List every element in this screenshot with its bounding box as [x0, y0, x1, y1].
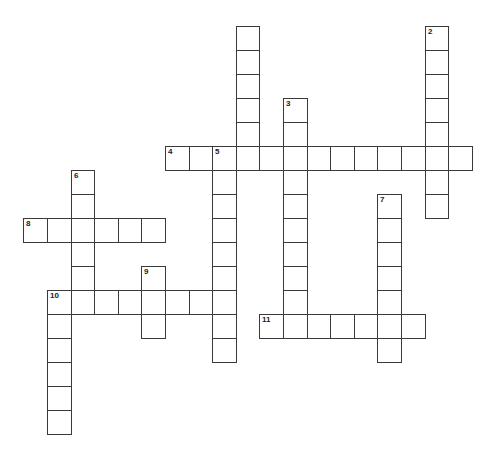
cell-letter [378, 343, 401, 362]
grid-cell[interactable] [425, 122, 449, 147]
grid-cell[interactable] [71, 242, 95, 267]
cell-letter [213, 199, 236, 218]
grid-cell[interactable] [212, 218, 237, 243]
grid-cell[interactable] [189, 146, 213, 171]
grid-cell[interactable] [283, 146, 308, 171]
cell-letter [48, 223, 71, 242]
grid-cell[interactable] [47, 338, 72, 363]
grid-cell[interactable] [354, 146, 378, 171]
grid-cell[interactable] [283, 266, 308, 291]
cell-letter [213, 247, 236, 266]
grid-cell[interactable] [307, 314, 331, 339]
cell-letter [166, 295, 189, 314]
grid-cell-clue-4[interactable]: 4 [165, 146, 190, 171]
cell-letter [24, 223, 47, 242]
grid-cell[interactable] [94, 290, 119, 315]
grid-cell[interactable] [212, 290, 237, 315]
grid-cell-clue-2[interactable]: 2 [425, 26, 449, 51]
grid-cell[interactable] [212, 314, 237, 339]
grid-cell[interactable] [236, 122, 260, 147]
grid-cell[interactable] [118, 290, 142, 315]
grid-cell[interactable] [425, 170, 449, 195]
grid-cell[interactable] [165, 290, 190, 315]
grid-cell[interactable] [236, 98, 260, 123]
grid-cell[interactable] [47, 410, 72, 435]
cell-letter [284, 223, 307, 242]
cell-letter [213, 223, 236, 242]
cell-letter [119, 295, 141, 314]
grid-cell[interactable] [283, 290, 308, 315]
grid-cell[interactable] [425, 194, 449, 219]
grid-cell[interactable] [448, 146, 473, 171]
grid-cell[interactable] [377, 242, 402, 267]
grid-cell[interactable] [141, 314, 166, 339]
grid-cell[interactable] [47, 386, 72, 411]
grid-cell[interactable] [377, 266, 402, 291]
grid-cell-clue-11[interactable]: 11 [259, 314, 284, 339]
grid-cell[interactable] [377, 218, 402, 243]
cell-letter [402, 151, 425, 170]
grid-cell[interactable] [425, 98, 449, 123]
cell-letter [72, 223, 94, 242]
grid-cell[interactable] [212, 338, 237, 363]
grid-cell[interactable] [330, 146, 355, 171]
grid-cell[interactable] [212, 194, 237, 219]
cell-letter [48, 391, 71, 410]
grid-cell[interactable] [212, 266, 237, 291]
cell-letter [308, 319, 330, 338]
cell-letter [378, 295, 401, 314]
cell-letter [378, 199, 401, 218]
grid-cell-clue-5[interactable]: 5 [212, 146, 237, 171]
grid-cell[interactable] [71, 218, 95, 243]
grid-cell[interactable] [283, 170, 308, 195]
cell-letter [284, 127, 307, 146]
cell-letter [48, 319, 71, 338]
grid-cell[interactable] [47, 314, 72, 339]
cell-letter [284, 295, 307, 314]
cell-letter [284, 151, 307, 170]
grid-cell[interactable] [94, 218, 119, 243]
cell-letter [426, 103, 448, 122]
grid-cell[interactable] [71, 194, 95, 219]
grid-cell[interactable] [307, 146, 331, 171]
grid-cell[interactable] [330, 314, 355, 339]
grid-cell[interactable] [47, 362, 72, 387]
grid-cell[interactable] [377, 146, 402, 171]
grid-cell[interactable] [401, 146, 426, 171]
grid-cell[interactable] [236, 146, 260, 171]
grid-cell[interactable] [212, 170, 237, 195]
grid-cell[interactable] [283, 122, 308, 147]
grid-cell-clue-9[interactable]: 9 [141, 266, 166, 291]
grid-cell[interactable] [425, 74, 449, 99]
grid-cell[interactable] [212, 242, 237, 267]
cell-letter [426, 175, 448, 194]
grid-cell[interactable] [283, 314, 308, 339]
grid-cell[interactable] [141, 290, 166, 315]
grid-cell[interactable] [283, 242, 308, 267]
grid-cell-clue-3[interactable]: 3 [283, 98, 308, 123]
grid-cell[interactable] [118, 218, 142, 243]
grid-cell[interactable] [377, 290, 402, 315]
grid-cell[interactable] [141, 218, 166, 243]
grid-cell[interactable] [354, 314, 378, 339]
grid-cell[interactable] [236, 50, 260, 75]
grid-cell[interactable] [189, 290, 213, 315]
grid-cell[interactable] [283, 194, 308, 219]
grid-cell-clue-7[interactable]: 7 [377, 194, 402, 219]
grid-cell-clue-8[interactable]: 8 [23, 218, 48, 243]
grid-cell[interactable] [236, 74, 260, 99]
grid-cell[interactable] [283, 218, 308, 243]
grid-cell[interactable] [425, 146, 449, 171]
grid-cell[interactable] [377, 338, 402, 363]
grid-cell[interactable] [425, 50, 449, 75]
grid-cell[interactable] [401, 314, 426, 339]
grid-cell[interactable] [377, 314, 402, 339]
grid-cell[interactable] [71, 266, 95, 291]
grid-cell[interactable] [259, 146, 284, 171]
grid-cell-clue-10[interactable]: 10 [47, 290, 72, 315]
grid-cell[interactable] [47, 218, 72, 243]
grid-cell[interactable] [236, 26, 260, 51]
grid-cell-clue-6[interactable]: 6 [71, 170, 95, 195]
cell-letter [237, 79, 259, 98]
grid-cell[interactable] [71, 290, 95, 315]
